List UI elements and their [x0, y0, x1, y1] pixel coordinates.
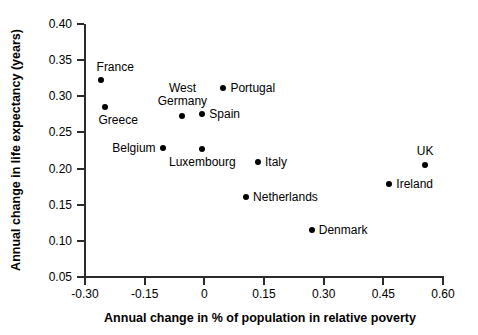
y-tick-mark — [77, 240, 84, 242]
data-point[interactable] — [199, 111, 205, 117]
x-tick-label: -0.30 — [57, 288, 113, 300]
y-tick-label: 0.05 — [36, 271, 72, 283]
data-point-label: Belgium — [112, 141, 155, 154]
x-tick-mark — [382, 278, 384, 285]
x-tick-mark — [84, 278, 86, 285]
data-point[interactable] — [255, 159, 261, 165]
data-point[interactable] — [98, 77, 104, 83]
y-tick-mark — [77, 95, 84, 97]
y-tick-label: 0.10 — [36, 235, 72, 247]
data-point[interactable] — [220, 85, 226, 91]
scatter-plot-figure: Annual change in life expectancy (years)… — [0, 0, 478, 335]
x-tick-label: 0.30 — [296, 288, 352, 300]
y-tick-label: 0.20 — [36, 163, 72, 175]
y-tick-mark — [77, 168, 84, 170]
data-point-label: France — [97, 60, 134, 73]
data-point[interactable] — [160, 145, 166, 151]
x-tick-mark — [263, 278, 265, 285]
y-tick-label: 0.30 — [36, 90, 72, 102]
data-point-label: West Germany — [158, 82, 207, 108]
data-point[interactable] — [199, 146, 205, 152]
x-tick-mark — [323, 278, 325, 285]
data-point-label: Denmark — [319, 224, 368, 237]
y-tick-label: 0.25 — [36, 126, 72, 138]
data-point-label: Ireland — [396, 178, 433, 191]
y-axis-title: Annual change in life expectancy (years) — [6, 0, 26, 300]
data-point[interactable] — [309, 227, 315, 233]
y-tick-mark — [77, 59, 84, 61]
data-point-label: UK — [417, 144, 434, 157]
x-tick-mark — [442, 278, 444, 285]
y-axis-line — [84, 24, 86, 278]
data-point-label: Netherlands — [253, 191, 318, 204]
data-point[interactable] — [386, 181, 392, 187]
y-tick-mark — [77, 204, 84, 206]
y-tick-mark — [77, 276, 84, 278]
data-point-label: Italy — [265, 156, 287, 169]
x-tick-mark — [203, 278, 205, 285]
data-point-label: Portugal — [230, 81, 275, 94]
y-tick-label: 0.40 — [36, 18, 72, 30]
y-tick-mark — [77, 131, 84, 133]
y-tick-label: 0.35 — [36, 54, 72, 66]
data-point[interactable] — [179, 113, 185, 119]
data-point-label: Spain — [209, 108, 240, 121]
data-point-label: Luxembourg — [169, 156, 236, 169]
data-point-label: Greece — [99, 114, 138, 127]
x-tick-label: -0.15 — [117, 288, 173, 300]
y-tick-mark — [77, 23, 84, 25]
x-tick-label: 0.45 — [355, 288, 411, 300]
x-tick-label: 0.15 — [236, 288, 292, 300]
x-axis-title: Annual change in % of population in rela… — [60, 311, 460, 325]
data-point[interactable] — [243, 194, 249, 200]
y-tick-label: 0.15 — [36, 199, 72, 211]
data-point[interactable] — [422, 162, 428, 168]
x-tick-label: 0 — [176, 288, 232, 300]
data-point[interactable] — [102, 104, 108, 110]
x-tick-mark — [144, 278, 146, 285]
x-tick-label: 0.60 — [415, 288, 471, 300]
